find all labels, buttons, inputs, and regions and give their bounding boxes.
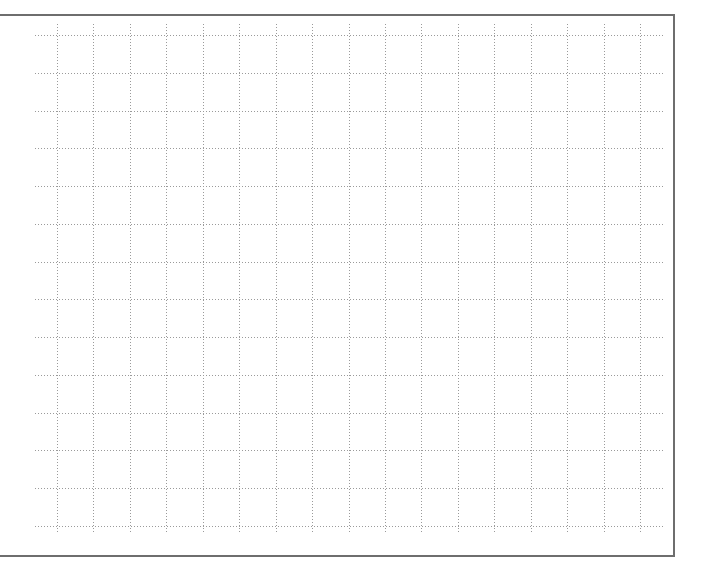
dotted-grid: [0, 0, 707, 586]
